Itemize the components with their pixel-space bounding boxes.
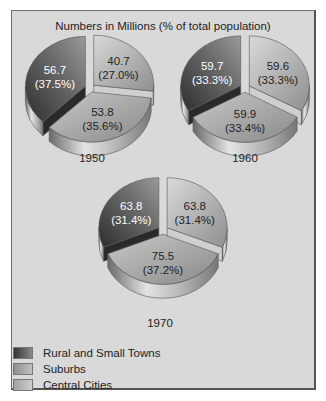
- legend-label: Rural and Small Towns: [43, 347, 160, 359]
- legend-item-suburbs: Suburbs: [13, 361, 160, 377]
- slice-percent: (27.0%): [98, 69, 138, 81]
- pie-1960: 59.7(33.3%)59.6(33.3%)59.9(33.4%): [181, 36, 310, 156]
- pie-charts: 56.7(37.5%)40.7(27.0%)53.8(35.6%)59.7(33…: [0, 0, 326, 401]
- year-label-1970: 1970: [130, 317, 190, 329]
- slice-value: 40.7: [107, 55, 129, 67]
- legend-item-central: Central Cities: [13, 377, 160, 393]
- slice-percent: (31.4%): [175, 214, 215, 226]
- slice-percent: (33.3%): [192, 74, 232, 86]
- slice-value: 53.8: [91, 106, 113, 118]
- slice-value: 56.7: [44, 64, 66, 76]
- swatch-central: [13, 379, 33, 391]
- pie-1950: 56.7(37.5%)40.7(27.0%)53.8(35.6%): [25, 35, 153, 156]
- slice-percent: (35.6%): [82, 120, 122, 132]
- slice-value: 59.7: [201, 60, 223, 72]
- swatch-suburbs: [13, 363, 33, 375]
- legend-item-rural: Rural and Small Towns: [13, 345, 160, 361]
- legend: Rural and Small Towns Suburbs Central Ci…: [13, 345, 160, 393]
- swatch-rural: [13, 347, 33, 359]
- legend-label: Central Cities: [43, 379, 112, 391]
- slice-percent: (37.2%): [143, 264, 183, 276]
- slice-value: 59.9: [234, 108, 256, 120]
- legend-label: Suburbs: [43, 363, 86, 375]
- slice-percent: (33.3%): [258, 74, 298, 86]
- slice-value: 75.5: [152, 250, 174, 262]
- slice-percent: (37.5%): [35, 78, 75, 90]
- slice-percent: (31.4%): [111, 214, 151, 226]
- pie-1970: 63.8(31.4%)63.8(31.4%)75.5(37.2%): [99, 178, 227, 299]
- slice-percent: (33.4%): [225, 122, 265, 134]
- year-label-1950: 1950: [62, 152, 122, 164]
- year-label-1960: 1960: [215, 152, 275, 164]
- slice-value: 59.6: [267, 60, 289, 72]
- slice-value: 63.8: [184, 200, 206, 212]
- slice-value: 63.8: [120, 200, 142, 212]
